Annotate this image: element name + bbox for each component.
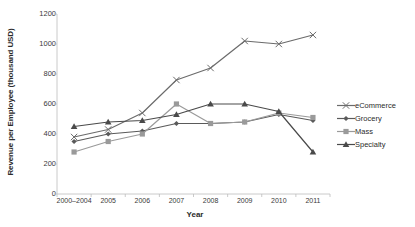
legend-marker-icon — [337, 113, 355, 124]
x-tick-label: 2008 — [203, 197, 219, 204]
legend-label: eCommerce — [355, 100, 396, 111]
data-point-marker — [139, 110, 145, 116]
x-tick-label: 2010 — [271, 197, 287, 204]
x-axis-title: Year — [60, 210, 330, 219]
data-point-marker — [71, 149, 76, 154]
legend-label: Grocery — [355, 113, 382, 124]
legend-item-mass[interactable]: Mass — [337, 125, 415, 138]
legend-item-ecommerce[interactable]: eCommerce — [337, 99, 415, 112]
data-point-marker — [208, 121, 213, 126]
line-chart: Revenue per Employee (thousand USD) 0200… — [0, 0, 415, 227]
legend-label: Mass — [355, 126, 373, 137]
data-point-marker — [173, 77, 179, 83]
data-point-marker — [343, 116, 348, 121]
data-point-marker — [174, 101, 179, 106]
legend-marker-icon — [337, 139, 355, 150]
data-point-marker — [343, 129, 348, 134]
chart-legend: eCommerceGroceryMassSpecialty — [337, 99, 415, 151]
data-point-marker — [140, 131, 145, 136]
legend-item-grocery[interactable]: Grocery — [337, 112, 415, 125]
series-specialty — [71, 101, 316, 155]
x-tick-label: 2006 — [135, 197, 151, 204]
data-point-marker — [106, 139, 111, 144]
x-tick-label: 2000–2004 — [57, 197, 92, 204]
data-point-marker — [207, 65, 213, 71]
data-point-marker — [71, 139, 76, 144]
legend-label: Specialty — [355, 139, 385, 150]
x-tick-label: 2009 — [237, 197, 253, 204]
legend-marker-icon — [337, 100, 355, 111]
data-point-marker — [242, 119, 247, 124]
data-point-marker — [310, 115, 315, 120]
legend-item-specialty[interactable]: Specialty — [337, 138, 415, 151]
data-point-marker — [106, 131, 111, 136]
x-tick-label: 2011 — [305, 197, 320, 204]
x-tick-label: 2005 — [100, 197, 116, 204]
legend-marker-icon — [337, 126, 355, 137]
data-point-marker — [174, 121, 179, 126]
x-tick-label: 2007 — [169, 197, 185, 204]
